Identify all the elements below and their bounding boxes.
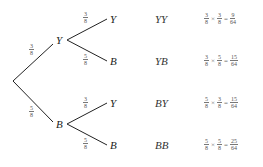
times-sign: × <box>211 57 215 65</box>
factor-a: 38 <box>204 54 209 67</box>
node-level1-B: B <box>56 119 63 130</box>
result: 2564 <box>230 138 238 151</box>
formula-YB: 38 × 58 = 1564 <box>204 54 238 67</box>
node-YB: B <box>110 56 117 67</box>
numerator: 5 <box>217 54 222 61</box>
factor-a: 38 <box>204 12 209 25</box>
prob-numerator: 5 <box>83 137 88 144</box>
numerator: 3 <box>217 12 222 19</box>
prob-Y-B: 5 8 <box>83 53 88 66</box>
factor-a: 58 <box>204 138 209 151</box>
prob-numerator: 3 <box>83 96 88 103</box>
equals-sign: = <box>224 57 228 65</box>
result: 1564 <box>230 96 238 109</box>
denominator: 64 <box>231 61 237 67</box>
denominator: 64 <box>231 145 237 151</box>
times-sign: × <box>211 15 215 23</box>
numerator: 15 <box>230 96 238 103</box>
denominator: 8 <box>205 61 208 67</box>
factor-b: 38 <box>217 96 222 109</box>
prob-root-B: 5 8 <box>29 105 34 118</box>
prob-root-Y: 3 8 <box>29 43 34 56</box>
factor-a: 58 <box>204 96 209 109</box>
equals-sign: = <box>224 141 228 149</box>
formula-YY: 38 × 38 = 964 <box>204 12 236 25</box>
factor-b: 58 <box>217 54 222 67</box>
numerator: 5 <box>217 138 222 145</box>
outcome-label-YB: YB <box>155 56 168 67</box>
prob-denominator: 8 <box>84 60 87 66</box>
numerator: 3 <box>204 54 209 61</box>
equals-sign: = <box>224 99 228 107</box>
prob-denominator: 8 <box>30 112 33 118</box>
denominator: 8 <box>218 61 221 67</box>
numerator: 5 <box>204 96 209 103</box>
denominator: 64 <box>231 103 237 109</box>
times-sign: × <box>211 99 215 107</box>
times-sign: × <box>211 141 215 149</box>
denominator: 8 <box>205 103 208 109</box>
prob-B-Y: 3 8 <box>83 96 88 109</box>
prob-denominator: 8 <box>84 144 87 150</box>
node-level1-Y: Y <box>56 35 62 46</box>
numerator: 5 <box>204 138 209 145</box>
prob-Y-Y: 3 8 <box>83 11 88 24</box>
factor-b: 58 <box>217 138 222 151</box>
outcome-label-BY: BY <box>155 98 168 109</box>
denominator: 8 <box>218 145 221 151</box>
prob-denominator: 8 <box>30 50 33 56</box>
numerator: 25 <box>230 138 238 145</box>
equals-sign: = <box>224 15 228 23</box>
outcome-label-BB: BB <box>155 140 168 151</box>
result: 964 <box>230 12 236 25</box>
node-BB: B <box>110 140 117 151</box>
node-BY: Y <box>110 98 116 109</box>
prob-numerator: 5 <box>29 105 34 112</box>
formula-BB: 58 × 58 = 2564 <box>204 138 238 151</box>
numerator: 15 <box>230 54 238 61</box>
prob-numerator: 3 <box>83 11 88 18</box>
denominator: 8 <box>205 145 208 151</box>
node-YY: Y <box>110 14 116 25</box>
prob-numerator: 3 <box>29 43 34 50</box>
prob-numerator: 5 <box>83 53 88 60</box>
denominator: 8 <box>218 19 221 25</box>
outcome-label-YY: YY <box>155 14 167 25</box>
prob-B-B: 5 8 <box>83 137 88 150</box>
numerator: 9 <box>230 12 235 19</box>
denominator: 64 <box>230 19 236 25</box>
denominator: 8 <box>218 103 221 109</box>
numerator: 3 <box>204 12 209 19</box>
factor-b: 38 <box>217 12 222 25</box>
result: 1564 <box>230 54 238 67</box>
formula-BY: 58 × 38 = 1564 <box>204 96 238 109</box>
denominator: 8 <box>205 19 208 25</box>
numerator: 3 <box>217 96 222 103</box>
prob-denominator: 8 <box>84 103 87 109</box>
prob-denominator: 8 <box>84 18 87 24</box>
